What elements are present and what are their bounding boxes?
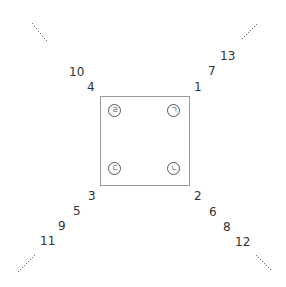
number-13: 13 [220, 50, 235, 62]
number-10: 10 [69, 66, 84, 78]
number-4: 4 [87, 81, 95, 93]
number-7: 7 [208, 65, 216, 77]
number-6: 6 [209, 206, 217, 218]
jamo-giyeok-circle: ㄱ [167, 104, 180, 117]
ellipsis-top-right [242, 24, 244, 26]
number-11: 11 [40, 235, 55, 247]
jamo-rieul-circle: ㄹ [108, 104, 121, 117]
ellipsis-top-left [32, 23, 34, 25]
number-9: 9 [58, 220, 66, 232]
number-1: 1 [194, 81, 202, 93]
ellipsis-bottom-right [256, 255, 258, 257]
number-5: 5 [73, 205, 81, 217]
jamo-nieun-circle: ㄴ [167, 162, 180, 175]
ellipsis-bottom-left [18, 255, 20, 257]
number-2: 2 [194, 190, 202, 202]
number-3: 3 [88, 190, 96, 202]
jamo-digeut-circle: ㄷ [108, 162, 121, 175]
number-8: 8 [223, 221, 231, 233]
number-12: 12 [235, 236, 250, 248]
